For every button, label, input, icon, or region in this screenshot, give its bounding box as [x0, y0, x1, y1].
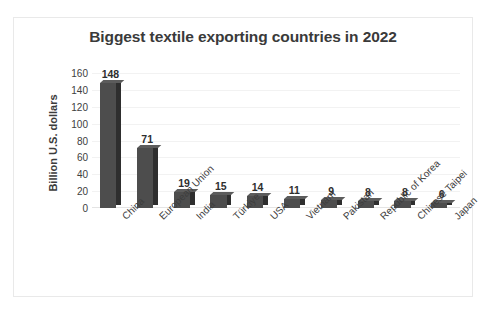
- y-tick-label: 160: [71, 68, 88, 79]
- x-axis-category-labels: ChinaEuropean UnionIndiaTürkiyeUSAVietna…: [92, 210, 460, 300]
- y-tick-label: 20: [77, 186, 88, 197]
- y-tick-label: 40: [77, 169, 88, 180]
- bar-top-face: [137, 145, 161, 148]
- bar-top-face: [284, 196, 308, 199]
- y-tick-label: 0: [82, 203, 88, 214]
- bar-front-face: [100, 83, 116, 208]
- y-tick-label: 100: [71, 118, 88, 129]
- gridline: [92, 124, 460, 125]
- y-tick-label: 140: [71, 84, 88, 95]
- bar-value-label: 11: [289, 184, 300, 196]
- bar-value-label: 71: [141, 133, 153, 145]
- bar-value-label: 15: [215, 180, 227, 192]
- gridline: [92, 90, 460, 91]
- gridline: [92, 107, 460, 108]
- chart-figure-frame: Biggest textile exporting countries in 2…: [13, 17, 473, 297]
- y-tick-label: 80: [77, 135, 88, 146]
- bar-top-face: [100, 80, 124, 83]
- bar[interactable]: 148: [100, 83, 121, 208]
- y-tick-label: 60: [77, 152, 88, 163]
- bar-side-face: [116, 80, 121, 205]
- chart-title: Biggest textile exporting countries in 2…: [14, 28, 472, 46]
- bar-value-label: 148: [102, 68, 120, 80]
- bar-side-face: [153, 145, 158, 205]
- y-axis-tick-labels: 020406080100120140160: [50, 73, 88, 208]
- y-tick-label: 120: [71, 101, 88, 112]
- gridline: [92, 73, 460, 74]
- bar-top-face: [210, 192, 234, 195]
